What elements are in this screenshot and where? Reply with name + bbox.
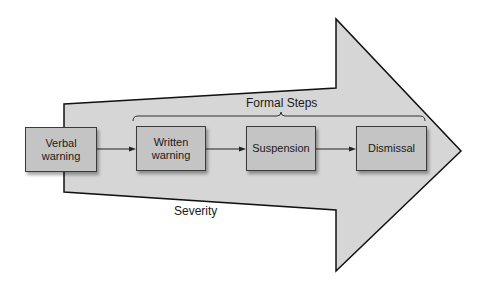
step-dismissal: Dismissal	[356, 126, 427, 171]
step-verbal-warning: Verbal warning	[25, 127, 97, 172]
severity-label: Severity	[174, 204, 217, 218]
step-written-warning: Written warning	[136, 126, 206, 171]
step-suspension: Suspension	[246, 126, 316, 171]
formal-steps-label: Formal Steps	[246, 96, 317, 110]
